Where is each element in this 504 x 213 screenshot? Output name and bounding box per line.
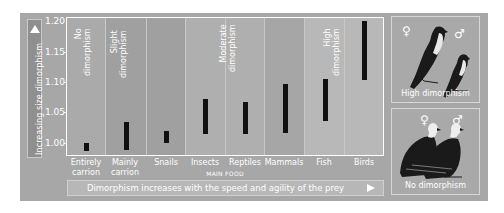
right-arrow-icon bbox=[367, 184, 375, 192]
plot-area: Nodimorphism Slightdimorphism Moderatedi… bbox=[66, 17, 384, 156]
bar-insects bbox=[203, 99, 208, 134]
category-label: Fish bbox=[304, 158, 344, 168]
category-label: Birds bbox=[344, 158, 384, 168]
bar-entirely-carrion bbox=[84, 143, 89, 151]
bar-birds bbox=[362, 21, 367, 80]
band-label-moderate-dimorphism: Moderatedimorphism bbox=[219, 24, 237, 72]
bar-mainly-carrion bbox=[124, 122, 129, 150]
column-birds: Highdimorphism bbox=[345, 18, 384, 155]
annotation-banner: Dimorphism increases with the speed and … bbox=[67, 180, 384, 196]
band-label-high-dimorphism: Highdimorphism bbox=[323, 28, 341, 76]
category-label: Snails bbox=[146, 158, 186, 168]
y-axis-label-box: Increasing size dimorphism bbox=[27, 19, 42, 158]
y-axis-label: Increasing size dimorphism bbox=[35, 43, 44, 155]
category-label: Reptiles bbox=[225, 158, 265, 168]
bar-snails bbox=[164, 131, 169, 143]
category-label: Insects bbox=[185, 158, 225, 168]
inset-no-dimorphism: ♀ ♂ No dimorphism bbox=[391, 108, 480, 195]
x-axis-label: MAIN FOOD bbox=[66, 170, 384, 177]
category-label: Mammals bbox=[264, 158, 304, 168]
inset-high-dimorphism: ♀ ♂ High dimorphism bbox=[391, 16, 480, 103]
bar-reptiles bbox=[243, 102, 248, 134]
bar-mammals bbox=[283, 84, 288, 133]
column-entirely-carrion: Nodimorphism bbox=[67, 18, 106, 155]
column-snails: Slightdimorphism bbox=[147, 18, 186, 155]
column-mammals bbox=[265, 18, 305, 155]
y-tick-label: 1.20 bbox=[45, 16, 67, 26]
column-reptiles: Moderatedimorphism bbox=[226, 18, 265, 155]
banner-text: Dimorphism increases with the speed and … bbox=[68, 183, 363, 193]
band-label-no-dimorphism: Nodimorphism bbox=[74, 28, 92, 76]
inset-caption: High dimorphism bbox=[392, 89, 479, 98]
band-label-slight-dimorphism: Slightdimorphism bbox=[110, 30, 128, 78]
up-arrow-icon bbox=[30, 25, 40, 33]
bar-fish bbox=[323, 79, 328, 121]
inset-caption: No dimorphism bbox=[392, 181, 479, 190]
